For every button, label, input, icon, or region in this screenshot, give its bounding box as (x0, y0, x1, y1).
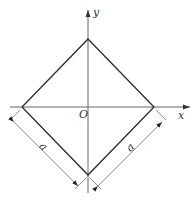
y-axis-label: y (93, 7, 99, 18)
diagram-canvas (0, 0, 196, 211)
extension-line-left-2 (75, 178, 86, 189)
coordinate-diagram: y x O a a (0, 0, 196, 211)
extension-line-right-1 (156, 110, 166, 120)
extension-line-right-2 (90, 178, 101, 189)
origin-label: O (79, 109, 88, 120)
extension-line-left-1 (10, 110, 20, 120)
x-axis-label: x (178, 110, 184, 121)
